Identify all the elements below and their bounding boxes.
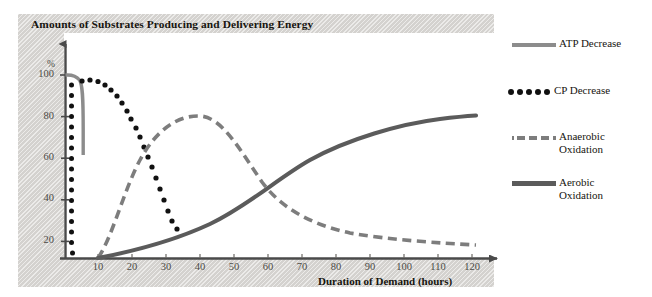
legend-item-cp-decrease[interactable]: CP Decrease xyxy=(507,84,610,99)
chart-figure: Amounts of Substrates Producing and Deli… xyxy=(0,0,652,297)
series-cp-decrease-vertical xyxy=(69,83,75,256)
legend-item-aerobic-oxidation[interactable]: Aerobic Oxidation xyxy=(512,176,603,201)
series-cp-decrease-curve xyxy=(79,77,179,231)
legend-swatch-dashed-icon xyxy=(512,131,556,145)
legend-item-atp-decrease[interactable]: ATP Decrease xyxy=(512,37,621,52)
legend-swatch-solid-thin-icon xyxy=(512,38,556,52)
legend-item-anaerobic-oxidation[interactable]: Anaerobic Oxidation xyxy=(512,130,605,155)
series-atp-decrease xyxy=(66,75,84,155)
legend-label-cp-decrease: CP Decrease xyxy=(551,84,610,97)
legend-label-aerobic-oxidation: Aerobic Oxidation xyxy=(556,176,603,201)
legend-label-anaerobic-oxidation: Anaerobic Oxidation xyxy=(556,130,605,155)
legend-label-atp-decrease: ATP Decrease xyxy=(556,37,621,50)
legend-swatch-solid-thick-icon xyxy=(512,177,556,191)
series-anaerobic-oxidation xyxy=(98,116,476,258)
legend-swatch-dotted-icon xyxy=(507,85,551,99)
